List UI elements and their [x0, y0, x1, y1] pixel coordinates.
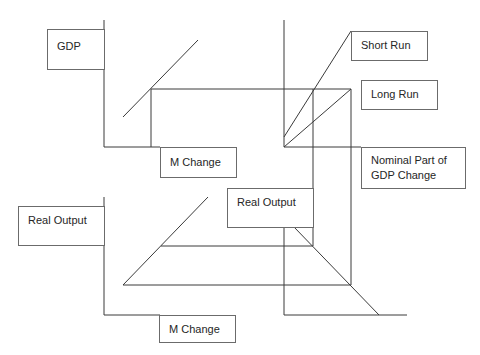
m-change-bottom-label: M Change — [169, 323, 220, 335]
short-run-label-box: Short Run — [351, 31, 428, 61]
long-run-label-box: Long Run — [361, 80, 438, 110]
nominal-gdp-change-label-box: Nominal Part of GDP Change — [361, 147, 466, 189]
short-run-line — [284, 31, 351, 137]
gdp-label: GDP — [57, 40, 81, 52]
nominal-label-line2: GDP Change — [371, 168, 465, 183]
real-output-mid-label: Real Output — [237, 196, 296, 208]
m-change-bottom-label-box: M Change — [159, 315, 236, 343]
nominal-label-line1: Nominal Part of — [371, 153, 465, 168]
real-output-left-label: Real Output — [28, 214, 87, 226]
m-change-top-label: M Change — [170, 156, 221, 168]
long-run-label: Long Run — [371, 88, 419, 100]
mapping-diagonal — [294, 227, 379, 315]
bottom-left-curve — [123, 197, 208, 285]
top-left-curve — [123, 40, 198, 117]
gdp-label-box: GDP — [47, 29, 105, 70]
short-run-label: Short Run — [361, 39, 411, 51]
real-output-left-label-box: Real Output — [18, 206, 105, 246]
m-change-top-label-box: M Change — [160, 147, 237, 178]
real-output-mid-label-box: Real Output — [227, 188, 314, 228]
long-run-line — [284, 89, 351, 147]
